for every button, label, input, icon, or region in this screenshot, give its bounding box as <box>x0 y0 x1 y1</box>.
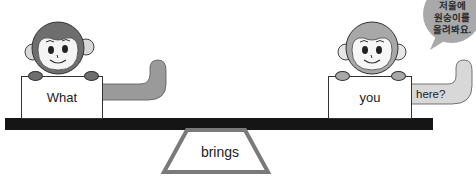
left-card: What <box>21 76 103 119</box>
right-paw-2 <box>391 71 406 81</box>
speech-line-2: 원숭이를 <box>424 12 476 24</box>
right-monkey <box>338 22 406 74</box>
left-paw-2 <box>84 71 99 81</box>
right-card: you <box>328 76 412 119</box>
left-paw-1 <box>28 71 43 81</box>
right-tail-label: here? <box>416 88 445 100</box>
speech-line-1: 저울에 <box>424 0 476 12</box>
left-monkey <box>25 22 94 74</box>
speech-line-3: 올려봐요. <box>424 24 476 36</box>
right-card-label: you <box>360 90 381 105</box>
fulcrum-label: brings <box>185 144 255 160</box>
speech-bubble-text: 저울에 원숭이를 올려봐요. <box>424 0 476 36</box>
left-monkey-tail <box>100 60 166 100</box>
right-paw-1 <box>335 71 350 81</box>
left-card-label: What <box>47 90 77 105</box>
